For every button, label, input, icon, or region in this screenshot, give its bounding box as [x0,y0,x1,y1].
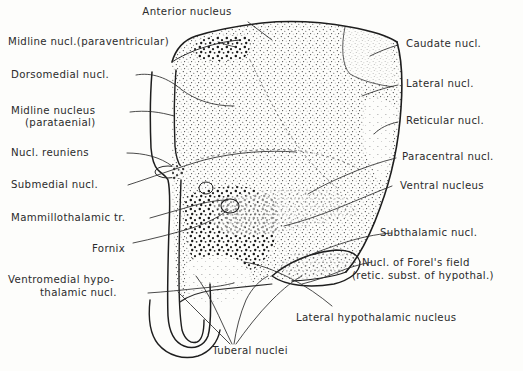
label-submedial-nucl: Submedial nucl. [11,179,98,191]
label-anterior-nucleus: Anterior nucleus [112,6,262,18]
label-forel-field-1: Nucl. of Forel's field [362,257,470,269]
label-midline-nucleus: Midline nucleus [11,105,95,117]
label-caudate-nucl: Caudate nucl. [406,38,481,50]
label-lateral-nucl: Lateral nucl. [406,78,474,90]
label-paracentral-nucl: Paracentral nucl. [402,151,494,163]
leader-midline-nucleus [130,111,174,116]
label-lateral-hypothalamic-nucleus: Lateral hypothalamic nucleus [296,312,456,324]
figure-page: Anterior nucleus Midline nucl.(paraventr… [0,0,523,371]
leader-nucl-reuniens [127,153,172,166]
label-parataenial: (parataenial) [11,117,96,129]
label-nucl-reuniens: Nucl. reuniens [11,147,89,159]
label-ventral-nucleus: Ventral nucleus [400,180,484,192]
label-forel-field-2: (retic. subst. of hypothal.) [352,270,494,282]
label-fornix: Fornix [92,243,125,255]
label-ventromedial-hypothalamic-2: thalamic nucl. [40,287,117,299]
label-subthalamic-nucl: Subthalamic nucl. [380,227,477,239]
label-tuberal-nuclei: Tuberal nuclei [190,345,310,357]
label-dorsomedial-nucl: Dorsomedial nucl. [11,69,109,81]
label-midline-paraventricular: Midline nucl.(paraventricular) [8,36,169,48]
label-mammillothalamic-tr: Mammillothalamic tr. [11,212,125,224]
label-reticular-nucl: Reticular nucl. [406,115,484,127]
label-ventromedial-hypothalamic-1: Ventromedial hypo- [8,274,114,286]
